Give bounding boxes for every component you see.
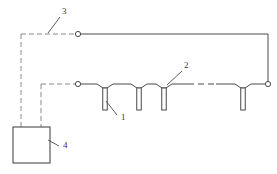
callout-label-1: 1 xyxy=(121,112,126,122)
schematic-diagram: 1 2 3 4 xyxy=(0,0,277,174)
callout-label-3: 3 xyxy=(62,6,67,16)
callout-label-2: 2 xyxy=(184,60,189,70)
leader-line-3 xyxy=(48,17,60,33)
callout-labels: 1 2 3 4 xyxy=(62,6,189,150)
diagram-canvas: 1 2 3 4 xyxy=(0,0,277,174)
tube-1 xyxy=(103,88,108,110)
node-mid-right xyxy=(265,81,270,86)
tube-3 xyxy=(162,88,167,110)
solid-piping xyxy=(81,34,268,88)
mid-rail-right-path xyxy=(216,84,265,88)
top-rail-path xyxy=(81,34,268,81)
dashed-signal-lines xyxy=(21,34,78,140)
leader-line-2 xyxy=(167,71,182,85)
tube-4 xyxy=(241,88,246,110)
connection-nodes xyxy=(75,31,270,86)
tube-elements xyxy=(103,88,246,110)
callout-label-4: 4 xyxy=(63,140,68,150)
control-box xyxy=(13,127,50,163)
node-mid-left xyxy=(75,81,80,86)
callout-leader-lines xyxy=(48,17,182,146)
tube-2 xyxy=(137,88,142,110)
node-top-left xyxy=(75,31,80,36)
mid-rail-left-path xyxy=(81,84,188,88)
